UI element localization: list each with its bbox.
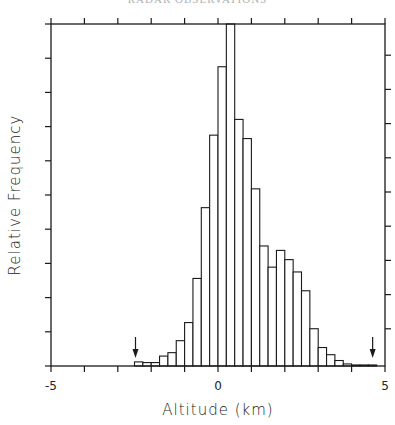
histogram-bar [268, 267, 276, 366]
histogram-bars [135, 24, 377, 366]
histogram-bar [276, 250, 284, 366]
x-tick-label: 0 [214, 379, 222, 393]
histogram-bar [335, 361, 343, 366]
histogram-bar [327, 355, 335, 366]
x-tick-label: 5 [381, 379, 389, 393]
histogram-bar [193, 278, 201, 366]
histogram-bar [235, 119, 243, 366]
histogram-bar [201, 208, 209, 366]
arrow-head-icon [370, 349, 376, 358]
histogram-bar [318, 348, 326, 366]
arrow-head-icon [133, 349, 139, 358]
histogram-bar [260, 246, 268, 366]
histogram-bar [185, 323, 193, 366]
y-axis-title: Relative Frequency [6, 115, 24, 276]
x-axis-title: Altitude (km) [162, 401, 273, 419]
x-tick-labels: -505 [45, 379, 389, 393]
histogram-chart: -505 Altitude (km) Relative Frequency [0, 0, 395, 425]
histogram-bar [293, 272, 301, 366]
x-tick-label: -5 [45, 379, 57, 393]
histogram-bar [226, 24, 234, 366]
histogram-bar [176, 341, 184, 366]
histogram-bar [251, 189, 259, 366]
histogram-bar [218, 67, 226, 366]
histogram-bar [310, 329, 318, 366]
histogram-bar [302, 291, 310, 366]
histogram-bar [210, 135, 218, 366]
histogram-bar [243, 139, 251, 366]
histogram-bar [285, 260, 293, 366]
histogram-bar [168, 353, 176, 366]
histogram-bar [160, 356, 168, 366]
